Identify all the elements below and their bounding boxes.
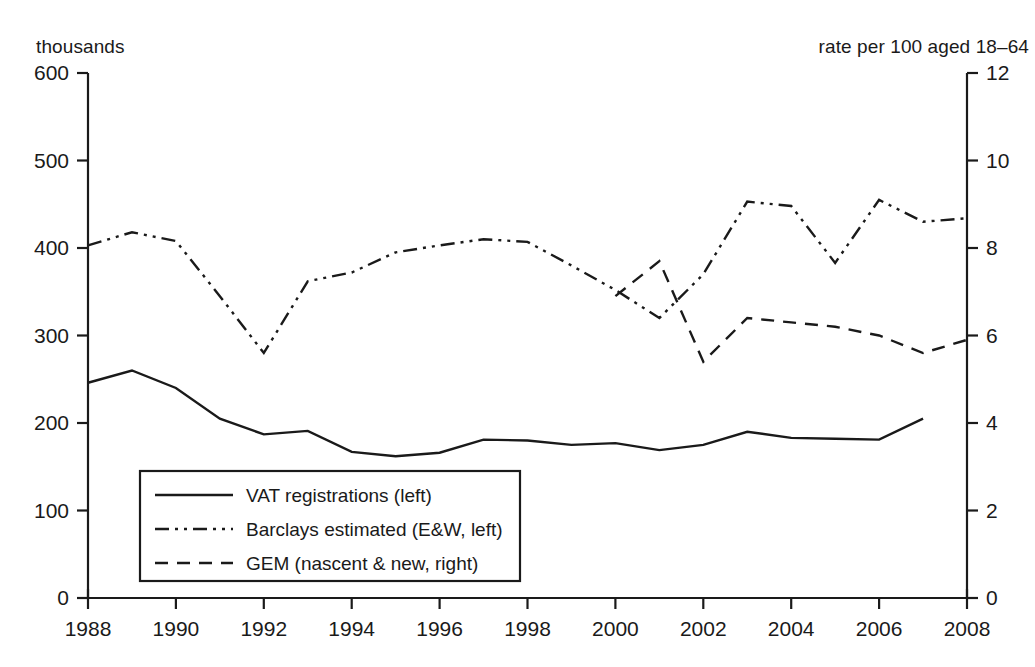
left-axis-tick-label: 300 [34, 324, 69, 347]
x-axis-tick-label: 2008 [944, 617, 991, 640]
right-axis-tick-label: 0 [986, 586, 998, 609]
x-axis-tick-label: 1988 [65, 617, 112, 640]
x-axis-tick-label: 2002 [680, 617, 727, 640]
right-axis-tick-label: 4 [986, 411, 998, 434]
x-axis-tick-label: 1990 [153, 617, 200, 640]
chart-legend: VAT registrations (left)Barclays estimat… [140, 471, 520, 581]
chart-figure: thousands rate per 100 aged 18–64 010020… [0, 0, 1035, 667]
legend-label: Barclays estimated (E&W, left) [246, 519, 503, 540]
left-axis-tick-label: 200 [34, 411, 69, 434]
left-axis-tick-label: 500 [34, 149, 69, 172]
x-axis-tick-label: 1994 [328, 617, 375, 640]
series-line [615, 261, 967, 362]
right-axis-tick-label: 12 [986, 61, 1009, 84]
x-axis-tick-label: 1996 [416, 617, 463, 640]
series-group [88, 200, 967, 456]
x-axis-tick-label: 2004 [768, 617, 815, 640]
left-axis-tick-label: 100 [34, 499, 69, 522]
left-axis-tick-label: 400 [34, 236, 69, 259]
x-axis-tick-label: 1998 [504, 617, 551, 640]
x-axis-tick-label: 2000 [592, 617, 639, 640]
right-axis-tick-label: 8 [986, 236, 998, 259]
plot-area: 0100200300400500600024681012198819901992… [0, 0, 1035, 667]
left-axis-tick-label: 0 [57, 586, 69, 609]
right-axis-tick-label: 2 [986, 499, 998, 522]
left-axis-tick-label: 600 [34, 61, 69, 84]
legend-label: VAT registrations (left) [246, 485, 432, 506]
x-axis-tick-label: 1992 [240, 617, 287, 640]
series-line [88, 371, 923, 457]
right-axis-tick-label: 6 [986, 324, 998, 347]
series-line [88, 200, 967, 353]
legend-label: GEM (nascent & new, right) [246, 553, 478, 574]
x-axis-tick-label: 2006 [856, 617, 903, 640]
right-axis-tick-label: 10 [986, 149, 1009, 172]
